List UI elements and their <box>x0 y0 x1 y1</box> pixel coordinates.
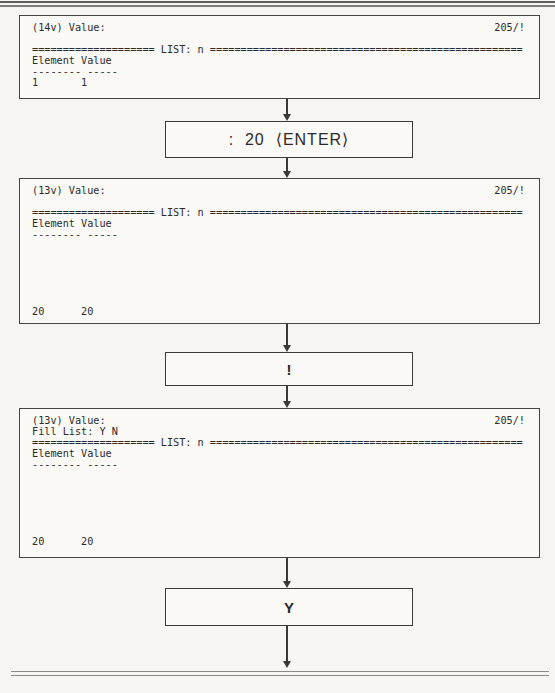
screen-display-3: 205/! (13v) Value: Fill List: Y N ======… <box>19 408 540 558</box>
arrow-shaft <box>286 386 288 401</box>
arrow-head-icon <box>283 171 291 178</box>
flow-arrow <box>282 386 292 408</box>
flow-arrow <box>282 158 292 178</box>
bottom-rule <box>11 671 549 676</box>
screen-status: 205/! <box>494 22 525 33</box>
arrow-head-icon <box>283 401 291 408</box>
arrow-shaft <box>286 99 288 114</box>
screen-status: 205/! <box>494 185 525 196</box>
key-input-label: Y <box>284 599 294 616</box>
arrow-head-icon <box>283 581 291 588</box>
arrow-head-icon <box>283 661 291 668</box>
key-input-box-2: ! <box>165 352 413 386</box>
key-input-label: ! <box>287 361 292 378</box>
screen-text: (13v) Value: Fill List: Y N ============… <box>20 409 539 547</box>
arrow-shaft <box>286 158 288 171</box>
key-input-label: : 20 ⟨ENTER⟩ <box>229 130 350 149</box>
screen-display-1: 205/! (14v) Value: ==================== … <box>19 15 540 99</box>
screen-status: 205/! <box>494 415 525 426</box>
arrow-head-icon <box>283 345 291 352</box>
arrow-shaft <box>286 324 288 345</box>
top-rule <box>0 1 555 7</box>
flow-arrow <box>282 558 292 588</box>
flow-arrow <box>282 626 292 668</box>
arrow-shaft <box>286 626 288 661</box>
flow-arrow <box>282 324 292 352</box>
arrow-head-icon <box>283 114 291 121</box>
screen-text: (13v) Value: ==================== LIST: … <box>20 179 539 317</box>
key-input-box-3: Y <box>165 588 413 626</box>
key-input-box-1: : 20 ⟨ENTER⟩ <box>165 121 413 158</box>
flow-arrow <box>282 99 292 121</box>
manual-flow-diagram: 205/! (14v) Value: ==================== … <box>0 0 555 693</box>
arrow-shaft <box>286 558 288 581</box>
screen-display-2: 205/! (13v) Value: ==================== … <box>19 178 540 324</box>
screen-text: (14v) Value: ==================== LIST: … <box>20 16 539 88</box>
